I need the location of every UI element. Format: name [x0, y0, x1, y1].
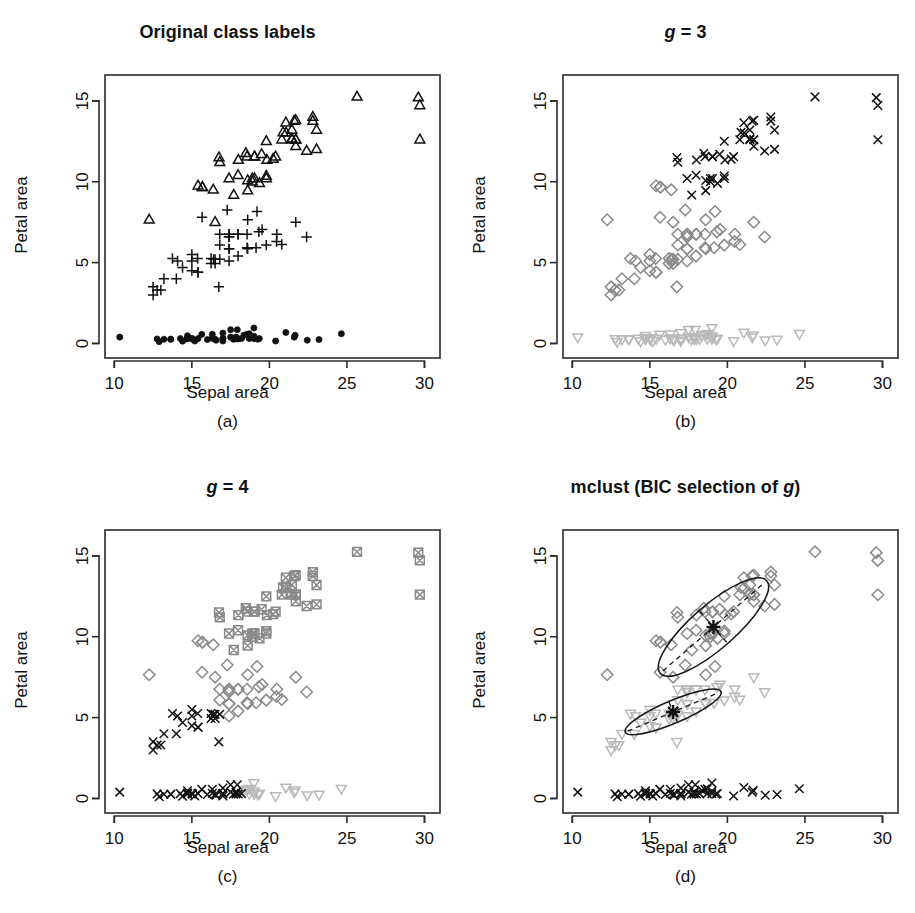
data-point-square-x — [302, 602, 311, 611]
data-point-cross-x — [721, 156, 730, 165]
data-point-diamond — [209, 671, 220, 682]
panel-a-ylabel: Petal area — [12, 105, 32, 325]
data-point-filled-circle — [220, 336, 226, 342]
data-point-filled-circle — [273, 338, 279, 344]
panel-d: mclust (BIC selection of g) 101520253005… — [458, 455, 913, 910]
data-point-cross-x — [701, 186, 710, 195]
y-tick-label: 5 — [74, 258, 93, 267]
data-point-square-x — [229, 646, 238, 655]
data-point-filled-circle — [168, 336, 174, 342]
data-point-cross-x — [573, 788, 582, 797]
data-point-cross-x — [687, 191, 696, 200]
data-point-triangle-up — [210, 217, 220, 226]
data-point-cross-x — [684, 780, 693, 789]
data-point-plus — [159, 274, 169, 284]
data-point-cross-x — [115, 788, 124, 797]
data-point-diamond — [242, 669, 253, 680]
data-point-triangle-down — [314, 791, 324, 800]
data-point-cross-x — [188, 721, 197, 730]
data-point-plus — [177, 262, 187, 272]
data-point-cross-x — [770, 126, 779, 135]
panel-a: Original class labels 1015202530051015 P… — [0, 0, 455, 455]
data-point-plus — [242, 243, 252, 253]
data-point-cross-x — [795, 784, 804, 793]
data-point-diamond — [667, 216, 678, 227]
data-point-diamond — [765, 566, 776, 577]
data-point-filled-circle — [238, 336, 244, 342]
data-point-cross-x — [673, 153, 682, 162]
data-point-square-x — [225, 629, 234, 638]
data-point-cross-x — [770, 145, 779, 154]
y-tick-label: 10 — [532, 627, 551, 646]
y-tick-label: 0 — [532, 339, 551, 348]
data-point-filled-circle — [117, 334, 123, 340]
cluster-centroid-star — [706, 620, 720, 634]
data-point-plus — [233, 251, 243, 261]
data-point-triangle-up — [261, 136, 271, 145]
panel-b-xlabel: Sepal area — [458, 383, 913, 403]
data-point-plus — [242, 215, 252, 225]
data-point-plus — [252, 206, 262, 216]
data-point-plus — [215, 229, 225, 239]
data-point-plus — [233, 229, 243, 239]
data-point-plus — [301, 232, 311, 242]
data-point-triangle-down — [302, 792, 312, 801]
data-point-cross-x — [708, 152, 717, 161]
panel-d-xlabel: Sepal area — [458, 838, 913, 858]
data-point-triangle-up — [208, 184, 218, 193]
data-point-plus — [224, 256, 234, 266]
data-point-diamond — [629, 273, 640, 284]
data-point-plus — [242, 229, 252, 239]
data-point-plus — [214, 282, 224, 292]
data-point-diamond — [667, 671, 678, 682]
data-point-cross-x — [740, 783, 749, 792]
data-point-triangle-down — [794, 331, 804, 340]
data-point-plus — [167, 253, 177, 263]
data-point-plus — [224, 229, 234, 239]
data-point-diamond — [196, 667, 207, 678]
data-point-plus — [193, 267, 203, 277]
data-point-filled-circle — [304, 337, 310, 343]
data-point-triangle-down — [707, 325, 717, 334]
data-point-cross-x — [874, 135, 883, 144]
data-point-diamond — [221, 659, 232, 670]
data-point-filled-circle — [338, 331, 344, 337]
data-point-filled-circle — [316, 337, 322, 343]
data-point-cross-x — [160, 729, 169, 738]
data-point-triangle-down — [624, 336, 634, 345]
data-point-diamond — [679, 204, 690, 215]
y-tick-label: 15 — [532, 91, 551, 110]
data-point-cross-x — [708, 779, 717, 788]
panel-b-caption: (b) — [458, 412, 913, 432]
data-point-plus — [187, 265, 197, 275]
data-point-triangle-down — [760, 337, 770, 346]
data-point-triangle-down — [729, 338, 739, 347]
data-point-cross-x — [172, 729, 181, 738]
data-point-filled-circle — [184, 333, 190, 339]
cluster-centroid-star — [666, 705, 680, 719]
data-point-triangle-down — [719, 697, 729, 706]
data-point-filled-circle — [204, 337, 210, 343]
data-point-triangle-up — [243, 185, 253, 194]
panel-c: g = 4 1015202530051015 Petal area Sepal … — [0, 455, 455, 910]
data-point-cross-x — [740, 118, 749, 127]
data-point-diamond — [143, 669, 154, 680]
y-tick-label: 15 — [74, 91, 93, 110]
data-point-triangle-up — [229, 190, 239, 199]
panel-b-ylabel: Petal area — [470, 105, 490, 325]
data-point-cross-x — [773, 790, 782, 799]
data-point-plus — [224, 244, 234, 254]
data-point-filled-circle — [228, 334, 234, 340]
data-point-cross-x — [149, 746, 158, 755]
data-point-triangle-up — [261, 171, 271, 180]
data-point-diamond — [700, 669, 711, 680]
data-point-cross-x — [194, 723, 203, 732]
data-point-diamond — [650, 267, 661, 278]
data-point-square-x — [281, 573, 290, 582]
data-point-diamond — [729, 229, 740, 240]
data-point-plus — [261, 240, 271, 250]
data-point-cross-x — [874, 101, 883, 110]
data-point-square-x — [312, 600, 321, 609]
panel-d-caption: (d) — [458, 867, 913, 887]
data-point-triangle-down — [760, 689, 770, 698]
